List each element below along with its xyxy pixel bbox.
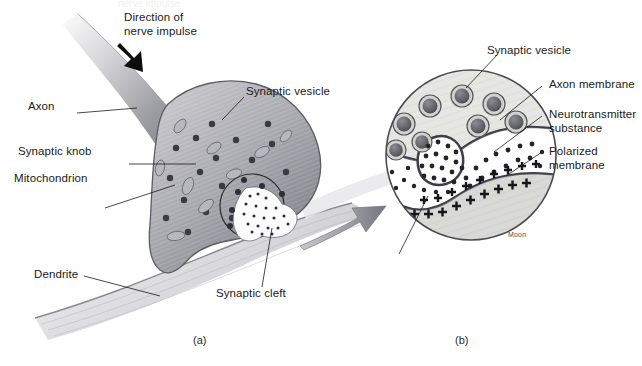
label-mitochondrion: Mitochondrion [14,172,88,186]
magnified-circle [386,70,556,244]
label-synaptic-vesicle-a: Synaptic vesicle [246,85,330,99]
label-dendrite: Dendrite [34,268,78,282]
label-polarized-membrane: Polarized membrane [549,145,605,172]
caption-panel-a: (a) [193,334,206,346]
label-axon: Axon [28,100,55,114]
label-neurotransmitter-substance: Neurotransmitter substance [549,108,636,135]
artist-signature: Moon [508,228,526,242]
label-direction-of-nerve-impulse: Direction of nerve impulse [124,11,197,38]
label-synaptic-cleft: Synaptic cleft [216,287,286,301]
label-synaptic-knob: Synaptic knob [18,145,92,159]
synapse-figure: nerve impulse Direction of nerve impulse… [0,0,642,366]
caption-panel-b: (b) [455,334,468,346]
label-synaptic-vesicle-b: Synaptic vesicle [487,44,571,58]
cropped-header-text: nerve impulse [118,0,180,9]
label-axon-membrane: Axon membrane [549,78,635,92]
